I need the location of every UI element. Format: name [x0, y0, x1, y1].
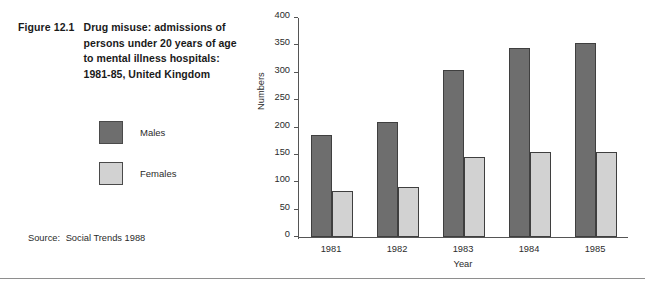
- figure-title-line-4: 1981-85, United Kingdom: [84, 67, 237, 83]
- source-note: Source: Social Trends 1988: [28, 233, 145, 243]
- figure-caption: Figure 12.1 Drug misuse: admissions of p…: [18, 20, 256, 82]
- bar-females-1981: [332, 191, 353, 237]
- bar-males-1983: [443, 70, 464, 237]
- y-tick: 250: [294, 99, 298, 100]
- y-tick: 0: [294, 236, 298, 237]
- chart-legend: Males Females: [99, 120, 249, 202]
- legend-swatch-males-icon: [99, 121, 123, 144]
- y-axis-label: Numbers: [256, 72, 266, 110]
- plot-area: 0501001502002503003504001981198219831984…: [298, 18, 628, 238]
- y-tick: 150: [294, 154, 298, 155]
- y-tick-label: 350: [274, 37, 290, 47]
- y-tick: 400: [294, 17, 298, 18]
- figure-title: Drug misuse: admissions of persons under…: [84, 20, 237, 82]
- y-tick-label: 150: [274, 147, 290, 157]
- figure-page: Figure 12.1 Drug misuse: admissions of p…: [0, 0, 645, 291]
- page-rule-divider: [0, 278, 645, 279]
- bar-females-1984: [530, 152, 551, 237]
- bar-males-1985: [575, 43, 596, 237]
- x-axis-label: Year: [298, 259, 628, 269]
- bar-males-1982: [377, 122, 398, 237]
- figure-title-line-1: Drug misuse: admissions of: [84, 20, 237, 36]
- legend-label-females: Females: [140, 168, 176, 179]
- legend-label-males: Males: [140, 127, 165, 138]
- bar-males-1981: [311, 135, 332, 237]
- bar-chart: Numbers 05010015020025030035040019811982…: [262, 12, 637, 274]
- y-tick-label: 100: [274, 174, 290, 184]
- source-text: Social Trends 1988: [66, 233, 146, 243]
- y-tick-label: 50: [280, 202, 290, 212]
- y-tick-label: 300: [274, 65, 290, 75]
- y-tick-label: 200: [274, 120, 290, 130]
- y-tick: 100: [294, 181, 298, 182]
- y-tick: 300: [294, 72, 298, 73]
- y-tick-label: 0: [285, 229, 290, 239]
- bar-females-1982: [398, 187, 419, 237]
- x-tick-label-1981: 1981: [298, 244, 364, 254]
- x-tick-label-1982: 1982: [364, 244, 430, 254]
- x-tick-label-1985: 1985: [562, 244, 628, 254]
- y-tick-label: 250: [274, 92, 290, 102]
- y-axis-line: [298, 18, 299, 239]
- bar-males-1984: [509, 48, 530, 237]
- legend-item-females: Females: [99, 161, 249, 185]
- source-label: Source:: [28, 233, 60, 243]
- bar-females-1985: [596, 152, 617, 237]
- legend-item-males: Males: [99, 120, 249, 144]
- y-tick-label: 400: [274, 10, 290, 20]
- figure-title-line-3: to mental illness hospitals:: [84, 51, 237, 67]
- figure-number: Figure 12.1: [18, 20, 84, 36]
- x-tick-label-1984: 1984: [496, 244, 562, 254]
- y-tick: 200: [294, 127, 298, 128]
- y-tick: 50: [294, 209, 298, 210]
- x-axis-line: [298, 237, 628, 238]
- figure-title-line-2: persons under 20 years of age: [84, 36, 237, 52]
- y-tick: 350: [294, 44, 298, 45]
- x-tick-label-1983: 1983: [430, 244, 496, 254]
- legend-swatch-females-icon: [99, 162, 123, 185]
- bar-females-1983: [464, 157, 485, 237]
